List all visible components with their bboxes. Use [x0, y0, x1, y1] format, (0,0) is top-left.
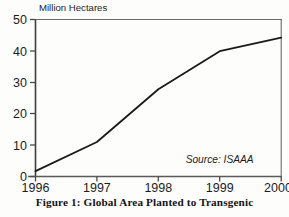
- y-axis-tick-labels: 50 40 30 20 10 0: [13, 13, 27, 184]
- figure-container: 50 40 30 20 10 0 1996 1997 1998 1999: [0, 0, 289, 217]
- x-axis-tick-labels: 1996 1997 1998 1999 2000: [22, 181, 289, 193]
- data-series-line: [36, 38, 282, 171]
- x-tick-label-1997: 1997: [83, 181, 111, 193]
- y-tick-label-30: 30: [13, 76, 27, 90]
- figure-caption: Figure 1: Global Area Planted to Transge…: [0, 196, 289, 208]
- x-tick-label-1996: 1996: [22, 181, 50, 193]
- x-tick-label-1999: 1999: [206, 181, 234, 193]
- y-tick-label-10: 10: [13, 139, 27, 153]
- source-annotation: Source: ISAAA: [186, 154, 254, 165]
- y-tick-label-40: 40: [13, 45, 27, 59]
- chart-canvas: 50 40 30 20 10 0 1996 1997 1998 1999: [0, 0, 289, 192]
- y-tick-label-50: 50: [13, 13, 27, 27]
- y-tick-label-20: 20: [13, 107, 27, 121]
- x-tick-label-2000: 2000: [264, 181, 289, 193]
- chart-axes: [28, 19, 282, 177]
- line-chart: 50 40 30 20 10 0 1996 1997 1998 1999: [0, 0, 289, 192]
- y-axis-label: Million Hectares: [39, 2, 107, 13]
- x-tick-label-1998: 1998: [144, 181, 172, 193]
- y-axis-ticks: [30, 20, 36, 177]
